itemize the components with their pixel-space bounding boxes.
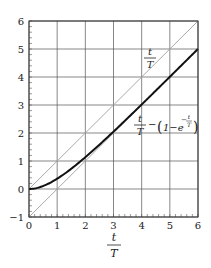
- grid: [29, 21, 198, 217]
- x-axis-label: t T: [107, 231, 121, 260]
- annotation-formula: t T − ( 1−e − t T ): [134, 113, 198, 137]
- x-tick-label: 2: [82, 220, 88, 231]
- svg-text:T: T: [110, 247, 119, 260]
- x-tick-label: 6: [195, 220, 201, 231]
- svg-text:T: T: [147, 59, 155, 70]
- y-tick-label: 5: [18, 44, 24, 55]
- y-tick-label: 6: [18, 16, 24, 27]
- x-tick-label: 5: [167, 220, 173, 231]
- svg-text:t: t: [138, 113, 143, 124]
- y-tick-label: 3: [18, 100, 24, 111]
- annotation-t-over-T: t T: [144, 46, 156, 70]
- svg-text:t: t: [148, 46, 153, 57]
- chart: −10123456 0123456 t T t T − ( 1−e − t T …: [0, 0, 211, 268]
- svg-text:−: −: [148, 119, 156, 130]
- svg-text:T: T: [187, 121, 192, 128]
- svg-text:t: t: [112, 231, 117, 244]
- x-tick-label: 0: [26, 220, 32, 231]
- svg-text:(: (: [157, 119, 162, 135]
- y-tick-label: 2: [18, 128, 24, 139]
- x-tick-labels: 0123456: [26, 220, 201, 231]
- svg-text:): ): [193, 119, 198, 135]
- y-tick-labels: −10123456: [9, 16, 24, 223]
- x-tick-label: 3: [110, 220, 116, 231]
- y-tick-label: 1: [18, 156, 24, 167]
- x-tick-label: 4: [138, 220, 144, 231]
- svg-text:t: t: [188, 113, 191, 120]
- y-tick-label: 0: [18, 184, 24, 195]
- y-tick-label: −1: [9, 212, 24, 223]
- y-tick-label: 4: [18, 72, 24, 83]
- x-tick-label: 1: [54, 220, 60, 231]
- svg-text:T: T: [137, 126, 145, 137]
